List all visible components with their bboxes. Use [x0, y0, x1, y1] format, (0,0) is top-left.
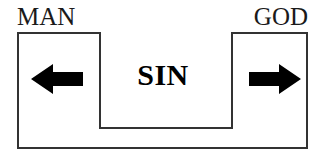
diagram-canvas: MAN GOD SIN: [0, 0, 326, 160]
right-arrow-icon: [249, 63, 301, 95]
label-god: GOD: [254, 4, 308, 29]
label-man: MAN: [17, 4, 75, 29]
right-arrow-path: [249, 64, 301, 94]
left-arrow-path: [31, 64, 83, 94]
left-arrow-icon: [31, 63, 83, 95]
